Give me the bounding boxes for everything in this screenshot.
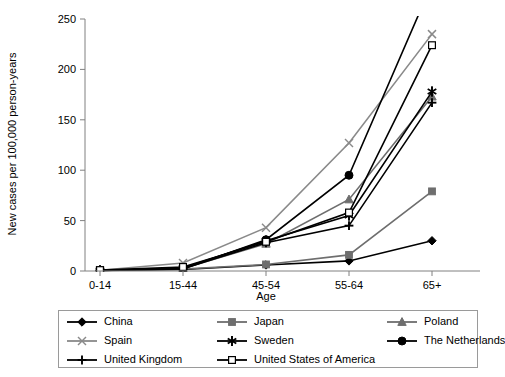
x-tick-label: 65+ [423, 279, 442, 291]
data-point-open-square [346, 209, 353, 216]
legend-item-united-states-of-america[interactable]: United States of America [215, 350, 385, 369]
data-point-filled-diamond [428, 237, 436, 245]
legend-marker-cross-x-icon [65, 334, 99, 348]
data-point-cross-x [262, 224, 270, 232]
data-point-filled-square [229, 318, 236, 325]
x-tick-label: 55-64 [335, 279, 363, 291]
legend-label: Japan [254, 316, 284, 327]
y-tick-label: 150 [58, 114, 76, 126]
data-point-open-square [263, 238, 270, 245]
data-point-cross-x [345, 139, 353, 147]
data-point-open-square [429, 42, 436, 49]
y-tick-label: 50 [64, 215, 76, 227]
series-line [100, 34, 432, 270]
data-point-filled-square [263, 261, 270, 268]
legend-label: Sweden [254, 335, 294, 346]
data-point-cross-x [428, 30, 436, 38]
legend-marker-filled-diamond-icon [65, 315, 99, 329]
legend-marker-filled-triangle-icon [385, 315, 419, 329]
series-line [100, 191, 432, 270]
legend-item-united-kingdom[interactable]: United Kingdom [65, 350, 215, 369]
legend-marker-filled-circle-icon [385, 334, 419, 348]
series-united-kingdom [96, 98, 437, 275]
legend-item-the-netherlands[interactable]: The Netherlands [385, 331, 505, 350]
legend-label: The Netherlands [424, 335, 505, 346]
y-tick-label: 250 [58, 13, 76, 25]
legend-item-japan[interactable]: Japan [215, 312, 385, 331]
x-tick-label: 0-14 [89, 279, 111, 291]
y-tick-label: 100 [58, 164, 76, 176]
x-axis-title: Age [256, 290, 276, 302]
legend-item-poland[interactable]: Poland [385, 312, 505, 331]
data-point-filled-square [429, 188, 436, 195]
series-japan [97, 188, 436, 274]
legend-item-sweden[interactable]: Sweden [215, 331, 385, 350]
y-tick-label: 0 [70, 265, 76, 277]
series-the-netherlands [96, 0, 432, 274]
legend-label: United States of America [254, 354, 375, 365]
legend-item-spain[interactable]: Spain [65, 331, 215, 350]
series-united-states-of-america [97, 42, 436, 274]
y-axis-title: New cases per 100,000 person-years [6, 52, 18, 235]
data-point-plus [78, 355, 87, 364]
legend-label: China [104, 316, 133, 327]
data-point-filled-diamond [78, 317, 86, 325]
data-point-open-square [229, 356, 236, 363]
data-point-filled-circle [345, 171, 353, 179]
y-tick-label: 200 [58, 63, 76, 75]
legend-label: Poland [424, 316, 458, 327]
legend-marker-asterisk-icon [215, 334, 249, 348]
legend-grid: ChinaJapanPolandSpainSwedenThe Netherlan… [59, 311, 477, 369]
data-point-open-square [180, 264, 187, 271]
legend-item-china[interactable]: China [65, 312, 215, 331]
legend-label: United Kingdom [104, 354, 182, 365]
legend-marker-filled-square-icon [215, 315, 249, 329]
x-tick-label: 15-44 [169, 279, 197, 291]
data-point-filled-circle [398, 337, 406, 345]
data-point-filled-square [346, 251, 353, 258]
legend-label: Spain [104, 335, 132, 346]
chart-legend: ChinaJapanPolandSpainSwedenThe Netherlan… [58, 310, 478, 368]
plot-area [96, 0, 437, 275]
data-point-plus [345, 221, 354, 230]
legend-marker-open-square-icon [215, 353, 249, 367]
legend-marker-plus-icon [65, 353, 99, 367]
